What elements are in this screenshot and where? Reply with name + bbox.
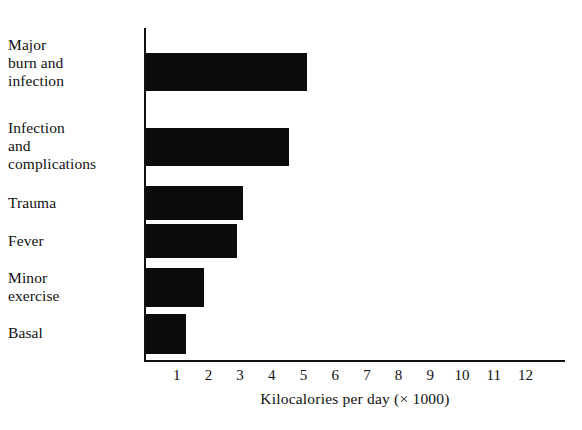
category-label-line: infection (8, 72, 132, 90)
x-tick-label-5: 5 (290, 366, 318, 384)
category-label-minor-exercise: Minor exercise (8, 269, 132, 305)
category-label-line: Minor (8, 269, 132, 287)
x-tick-label-11: 11 (480, 366, 508, 384)
plot-area (145, 28, 565, 361)
category-label-basal: Basal (8, 324, 132, 342)
category-label-line: and (8, 137, 132, 155)
category-label-line: Trauma (8, 194, 132, 212)
category-label-trauma: Trauma (8, 194, 132, 212)
x-tick-label-12: 12 (511, 366, 539, 384)
category-label-line: exercise (8, 287, 132, 305)
category-label-fever: Fever (8, 232, 132, 250)
x-tick-label-6: 6 (321, 366, 349, 384)
category-label-line: burn and (8, 54, 132, 72)
x-tick-label-8: 8 (385, 366, 413, 384)
category-label-line: Infection (8, 119, 132, 137)
bar-minor-exercise (145, 268, 204, 307)
category-label-line: Major (8, 36, 132, 54)
x-tick-label-10: 10 (448, 366, 476, 384)
category-label-line: Fever (8, 232, 132, 250)
x-tick-label-1: 1 (163, 366, 191, 384)
x-tick-label-9: 9 (416, 366, 444, 384)
bar-major-burn-and-infection (145, 53, 307, 91)
bar-chart-figure: Major burn and infection Infection and c… (0, 0, 582, 430)
x-tick-label-4: 4 (258, 366, 286, 384)
x-axis-title: Kilocalories per day (× 1000) (145, 389, 565, 408)
category-label-line: Basal (8, 324, 132, 342)
x-tick-label-2: 2 (194, 366, 222, 384)
bar-fever (145, 224, 237, 258)
category-label-major-burn-and-infection: Major burn and infection (8, 36, 132, 90)
x-tick-label-7: 7 (353, 366, 381, 384)
category-axis-labels: Major burn and infection Infection and c… (0, 0, 140, 362)
bar-infection-and-complications (145, 128, 289, 166)
x-tick-label-3: 3 (226, 366, 254, 384)
bar-basal (145, 314, 186, 354)
category-label-line: complications (8, 155, 132, 173)
bar-trauma (145, 186, 243, 220)
category-label-infection-and-complications: Infection and complications (8, 119, 132, 173)
